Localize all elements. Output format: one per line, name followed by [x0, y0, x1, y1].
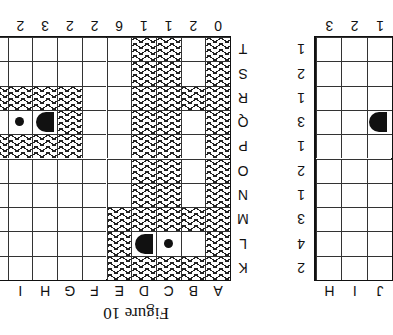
- grid-cell: [316, 207, 341, 231]
- column-clue: 1: [132, 18, 156, 34]
- grid-cell: [82, 37, 107, 61]
- grid-cell: [82, 207, 107, 231]
- grid-cell: [341, 159, 366, 183]
- grid-cell: [57, 183, 82, 207]
- column-clue: 2: [83, 18, 107, 34]
- row-label: K: [231, 260, 255, 276]
- grid-cell: [131, 61, 156, 85]
- grid-cell: [32, 86, 57, 110]
- grid-cell: [8, 37, 33, 61]
- grid-cell: [316, 37, 341, 61]
- grid-cell: [107, 134, 132, 158]
- grid-cell: [156, 207, 181, 231]
- row-clue: 3: [289, 114, 313, 130]
- grid-cell: [107, 207, 132, 231]
- grid-cell: [57, 86, 82, 110]
- grid-cell: [205, 207, 230, 231]
- column-clue: 1: [368, 18, 392, 34]
- grid-cell: [107, 256, 132, 280]
- grid-cell: [205, 37, 230, 61]
- row-label: R: [231, 90, 255, 106]
- grid-cell: [205, 183, 230, 207]
- grid-cell: [156, 183, 181, 207]
- grid-cell: [156, 256, 181, 280]
- grid-cell: [32, 134, 57, 158]
- grid-cell: [156, 37, 181, 61]
- column-clue: 3: [317, 18, 341, 34]
- grid-cell: [181, 37, 206, 61]
- grid-cell: [367, 86, 392, 110]
- grid-cell: [205, 110, 230, 134]
- grid-cell: [107, 159, 132, 183]
- grid-cell: [367, 159, 392, 183]
- grid-cell: [57, 231, 82, 255]
- row-clue: 3: [289, 211, 313, 227]
- row-label: O: [231, 163, 255, 179]
- grid-cell: [0, 134, 8, 158]
- column-clue: 0: [206, 18, 230, 34]
- grid-cell: [131, 207, 156, 231]
- grid-cell: [156, 86, 181, 110]
- grid-cell: [205, 256, 230, 280]
- grid-cell: [205, 134, 230, 158]
- row-clue: 2: [289, 163, 313, 179]
- grid-cell: [341, 207, 366, 231]
- column-clue: 2: [8, 18, 32, 34]
- column-label: E: [107, 283, 131, 299]
- lamp-icon: [135, 234, 153, 254]
- grid-cell: [82, 110, 107, 134]
- grid-cell: [181, 159, 206, 183]
- column-clue: 2: [343, 18, 367, 34]
- grid-cell: [205, 231, 230, 255]
- column-label: I: [343, 283, 367, 299]
- grid-cell: [181, 207, 206, 231]
- grid-cell: [316, 86, 341, 110]
- grid-cell: [0, 256, 8, 280]
- grid-cell: [341, 110, 366, 134]
- grid-cell: [341, 86, 366, 110]
- grid-cell: [82, 134, 107, 158]
- lamp-icon: [369, 112, 387, 132]
- grid-cell: [316, 256, 341, 280]
- grid-cell: [181, 86, 206, 110]
- grid-cell: [156, 61, 181, 85]
- grid-cell: [32, 207, 57, 231]
- row-label: N: [231, 187, 255, 203]
- grid-cell: [8, 61, 33, 85]
- row-clue: 2: [289, 260, 313, 276]
- grid-cell: [8, 159, 33, 183]
- grid-cell: [316, 159, 341, 183]
- grid-cell: [205, 86, 230, 110]
- grid-cell: [367, 61, 392, 85]
- grid-cell: [131, 183, 156, 207]
- grid-cell: [131, 134, 156, 158]
- grid-cell: [32, 183, 57, 207]
- row-clue: 1: [289, 41, 313, 57]
- grid-cell: [8, 207, 33, 231]
- grid-cell: [32, 231, 57, 255]
- grid-cell: [57, 37, 82, 61]
- grid-cell: [181, 110, 206, 134]
- grid-cell: [82, 86, 107, 110]
- grid-cell: [131, 37, 156, 61]
- grid-cell: [316, 61, 341, 85]
- row-label: L: [231, 236, 255, 252]
- grid-cell: [107, 231, 132, 255]
- column-label: H: [317, 283, 341, 299]
- grid-cell: [181, 183, 206, 207]
- grid-cell: [0, 86, 8, 110]
- grid-cell: [0, 183, 8, 207]
- row-label: P: [231, 139, 255, 155]
- grid-cell: [0, 110, 8, 134]
- column-clue: 2: [181, 18, 205, 34]
- grid-cell: [367, 256, 392, 280]
- grid-cell: [0, 159, 8, 183]
- grid-cell: [0, 207, 8, 231]
- grid-cell: [156, 110, 181, 134]
- column-label: J: [368, 283, 392, 299]
- grid-cell: [57, 134, 82, 158]
- grid-cell: [57, 159, 82, 183]
- grid-cell: [156, 159, 181, 183]
- column-label: G: [58, 283, 82, 299]
